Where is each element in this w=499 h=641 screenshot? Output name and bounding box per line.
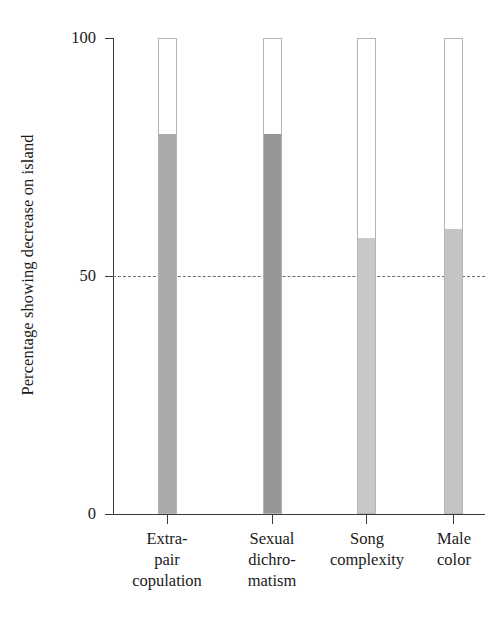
y-axis-title: Percentage showing decrease on island (0, 0, 56, 530)
x-axis-label-song-complexity: Song complexity (322, 528, 412, 570)
x-label-line: Extra- (113, 528, 221, 549)
y-tick-mark-0 (105, 514, 114, 515)
y-tick-label-100: 100 (50, 30, 96, 47)
y-tick-label-0: 0 (50, 506, 96, 523)
bar-fill-2 (358, 238, 375, 513)
x-label-line: complexity (322, 549, 412, 570)
bar-fill-0 (159, 134, 176, 513)
x-axis-label-male-color: Male color (414, 528, 494, 570)
x-label-line: Song (322, 528, 412, 549)
x-label-line: Sexual (223, 528, 321, 549)
x-axis-label-sexual-dichromatism: Sexual dichro- matism (223, 528, 321, 591)
x-axis-label-extra-pair-copulation: Extra- pair copulation (113, 528, 221, 591)
x-label-line: copulation (113, 570, 221, 591)
x-tick-mark-1 (272, 514, 273, 524)
bar-extra-pair-copulation (158, 38, 177, 514)
x-label-line: Male (414, 528, 494, 549)
bar-song-complexity (357, 38, 376, 514)
bar-chart: Percentage showing decrease on island 10… (0, 0, 499, 641)
x-tick-mark-2 (366, 514, 367, 524)
x-axis-line (113, 514, 485, 515)
y-axis-title-text: Percentage showing decrease on island (18, 134, 38, 395)
bar-male-color (444, 38, 463, 514)
bar-fill-1 (264, 134, 281, 513)
plot-area (113, 38, 485, 514)
y-tick-label-50: 50 (50, 268, 96, 285)
x-label-line: dichro- (223, 549, 321, 570)
bar-fill-3 (445, 229, 462, 513)
x-label-line: pair (113, 549, 221, 570)
bar-sexual-dichromatism (263, 38, 282, 514)
x-tick-mark-3 (453, 514, 454, 524)
x-label-line: matism (223, 570, 321, 591)
x-label-line: color (414, 549, 494, 570)
x-tick-mark-0 (167, 514, 168, 524)
